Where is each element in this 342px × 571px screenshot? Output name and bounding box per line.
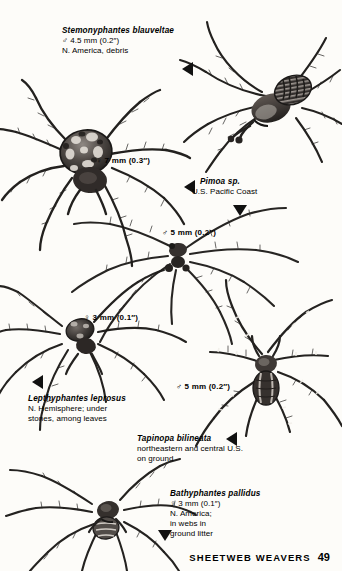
measurement-pimoa-male: ♂ 5 mm (0.2″)	[162, 228, 216, 237]
species-range-lepthyphantes-line1: N. Hemisphere; under	[28, 404, 126, 414]
species-size-stemonyphantes: ♂ 4.5 mm (0.2″)	[62, 36, 174, 46]
field-guide-page: Stemonyphantes blauveltae ♂ 4.5 mm (0.2″…	[0, 0, 342, 571]
species-range-bathyphantes-line3: ground litter	[170, 529, 261, 539]
species-range-bathyphantes-line1: N. America;	[170, 509, 261, 519]
caption-tapinopa-bilineata: Tapinopa bilineata northeastern and cent…	[137, 434, 243, 464]
species-range-tapinopa-line2: on ground	[137, 454, 243, 464]
species-range-lepthyphantes-line2: stones, among leaves	[28, 414, 126, 424]
caption-lepthyphantes-leprosus: Lepthyphantes leprosus N. Hemisphere; un…	[28, 394, 126, 424]
spider-illustrations-layer	[0, 0, 342, 571]
arrow-stemonyphantes	[182, 62, 193, 76]
species-range-bathyphantes-line2: in webs in	[170, 519, 261, 529]
page-number: 49	[318, 551, 330, 563]
measurement-pimoa-female: ♀ 7 mm (0.3″)	[96, 156, 150, 165]
fig-bathyphantes	[6, 459, 196, 571]
caption-bathyphantes-pallidus: Bathyphantes pallidus ♀ 3 mm (0.1″) N. A…	[170, 489, 261, 539]
footer-section-title: SHEETWEB WEAVERS	[189, 552, 310, 563]
arrow-lepthyphantes	[32, 375, 43, 389]
arrow-pimoa-male	[233, 205, 247, 216]
species-name-lepthyphantes: Lepthyphantes leprosus	[28, 394, 126, 404]
species-size-bathyphantes: ♀ 3 mm (0.1″)	[170, 499, 261, 509]
species-range-stemonyphantes: N. America, debris	[62, 46, 174, 56]
species-range-tapinopa-line1: northeastern and central U.S.	[137, 444, 243, 454]
fig-tapinopa	[196, 280, 342, 446]
species-name-stemonyphantes: Stemonyphantes blauveltae	[62, 26, 174, 36]
measurement-tapinopa-male: ♂ 5 mm (0.2″)	[176, 382, 230, 391]
caption-stemonyphantes-blauveltae: Stemonyphantes blauveltae ♂ 4.5 mm (0.2″…	[62, 26, 174, 56]
fig-stemonyphantes	[180, 22, 342, 172]
species-name-bathyphantes: Bathyphantes pallidus	[170, 489, 261, 499]
measurement-lepthyphantes-female: ♀ 3 mm (0.1″)	[84, 313, 138, 322]
fig-pimoa-female	[0, 80, 190, 266]
caption-pimoa-sp: Pimoa sp. U.S. Pacific Coast	[200, 177, 257, 197]
species-name-tapinopa: Tapinopa bilineata	[137, 434, 243, 444]
species-range-pimoa: U.S. Pacific Coast	[192, 187, 257, 197]
page-footer: SHEETWEB WEAVERS49	[189, 551, 330, 563]
species-name-pimoa: Pimoa sp.	[200, 177, 257, 187]
